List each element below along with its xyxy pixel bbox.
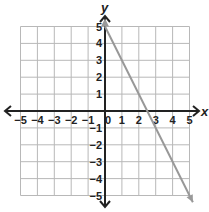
x-tick-label: 4 <box>170 114 177 126</box>
x-tick-label: 1 <box>119 114 125 126</box>
y-tick-label: 2 <box>96 71 102 83</box>
y-axis-label: y <box>100 0 109 15</box>
y-tick-label: 1 <box>96 88 102 100</box>
x-tick-label: −2 <box>65 114 78 126</box>
y-tick-label: 3 <box>96 54 102 66</box>
x-tick-label: −3 <box>48 114 61 126</box>
coordinate-plane: −5−4−3−2−1012345−5−4−3−2−112345 x y <box>0 0 209 212</box>
x-tick-label: −4 <box>31 114 44 126</box>
y-tick-label: −5 <box>89 190 102 202</box>
x-tick-label: 2 <box>136 114 142 126</box>
x-tick-label: 5 <box>186 114 192 126</box>
x-axis-label: x <box>200 104 209 119</box>
y-tick-label: −3 <box>89 156 102 168</box>
y-tick-label: −4 <box>89 173 102 185</box>
y-tick-label: −2 <box>89 139 102 151</box>
y-tick-label: −1 <box>89 122 102 134</box>
x-tick-label: −5 <box>14 114 27 126</box>
y-tick-label: 4 <box>96 37 103 49</box>
x-tick-label: 0 <box>105 114 111 126</box>
